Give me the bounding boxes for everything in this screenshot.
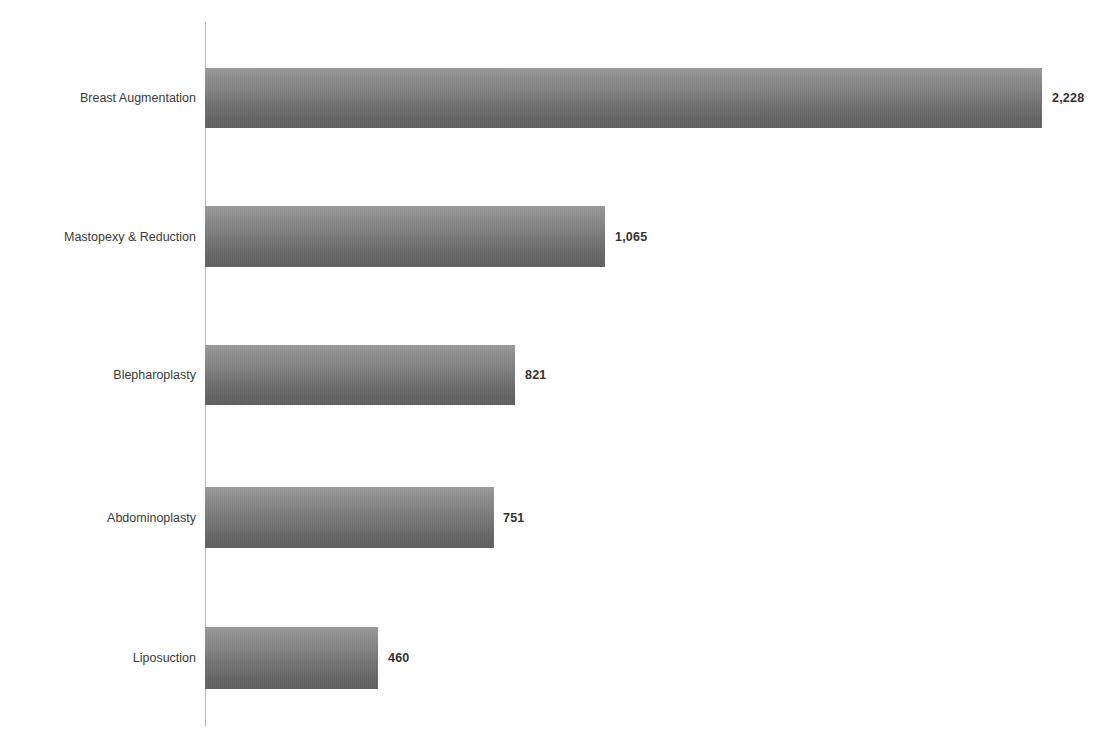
category-label: Abdominoplasty (107, 511, 196, 525)
bar-value-label: 1,065 (615, 230, 647, 244)
bar-value-label: 821 (525, 368, 546, 382)
bar[interactable] (205, 627, 378, 689)
bar-value-label: 751 (503, 511, 524, 525)
category-label: Liposuction (133, 651, 196, 665)
category-label: Breast Augmentation (80, 91, 196, 105)
chart-page: Breast Augmentation 2,228 Mastopexy & Re… (0, 0, 1104, 742)
category-label: Mastopexy & Reduction (64, 230, 196, 244)
bar[interactable] (205, 206, 605, 267)
bar-value-label: 2,228 (1052, 91, 1084, 105)
bar[interactable] (205, 487, 494, 548)
bar[interactable] (205, 345, 515, 405)
bar[interactable] (205, 68, 1042, 128)
bar-chart-plot-area: Breast Augmentation 2,228 Mastopexy & Re… (0, 0, 1104, 742)
category-label: Blepharoplasty (113, 368, 196, 382)
bar-value-label: 460 (388, 651, 409, 665)
